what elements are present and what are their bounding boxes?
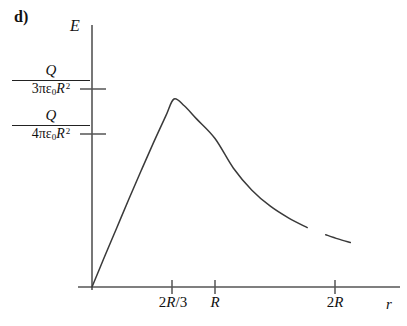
y-tick-0-pi: πε <box>39 81 52 96</box>
y-tick-1-sym: R <box>56 126 65 141</box>
field-curve <box>92 99 307 287</box>
y-tick-0-numerator: Q <box>12 63 90 80</box>
x-tick-label-1: R <box>202 294 228 311</box>
y-tick-1-coef: 4 <box>32 126 39 141</box>
field-curve-tail-segment <box>326 235 351 243</box>
x-tick-2-sym: R <box>334 294 343 310</box>
y-tick-1-denominator: 4πε0R2 <box>12 125 90 143</box>
y-tick-0-sym: R <box>56 81 65 96</box>
x-tick-0-sym: R <box>166 294 175 310</box>
y-tick-label-1: Q 4πε0R2 <box>12 108 90 142</box>
electric-field-figure: d) E r Q 3πε0R2 Q 4πε0R2 2R/3 R 2R <box>0 0 407 326</box>
x-tick-1-sym: R <box>210 294 219 310</box>
y-tick-0-denominator: 3πε0R2 <box>12 80 90 98</box>
x-tick-0-tail: /3 <box>176 294 188 310</box>
y-tick-1-numerator: Q <box>12 108 90 125</box>
y-tick-1-sup: 2 <box>65 126 71 136</box>
plot-area <box>0 0 407 326</box>
y-tick-0-coef: 3 <box>32 81 39 96</box>
x-tick-label-2: 2R <box>318 294 352 311</box>
y-tick-1-pi: πε <box>39 126 52 141</box>
y-tick-label-0: Q 3πε0R2 <box>12 63 90 97</box>
y-tick-0-sup: 2 <box>65 81 71 91</box>
x-tick-label-0: 2R/3 <box>148 294 198 311</box>
